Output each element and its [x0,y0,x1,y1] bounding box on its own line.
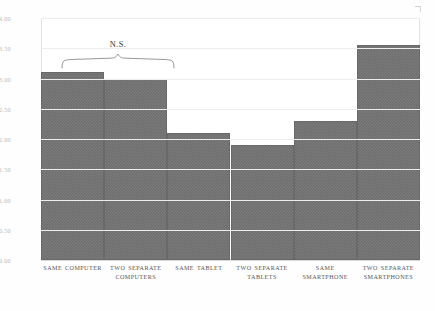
y-axis-tick-label: 2.50 [0,105,11,112]
bar [357,45,420,260]
x-axis-label-slot: SAME SMARTPHONE [294,264,357,281]
gridline [41,18,420,19]
y-axis-tick-label: 4.00 [0,15,11,22]
x-axis-tick-label: TWO SEPARATE COMPUTERS [105,264,166,281]
x-axis-tick-label: TWO SEPARATE TABLETS [232,264,293,281]
bar [231,145,294,260]
y-axis-tick-label: 3.00 [0,75,11,82]
y-axis-tick-label: 0.00 [0,257,11,264]
x-axis-label-slot: TWO SEPARATE TABLETS [231,264,294,281]
gridline [41,48,420,49]
x-axis-label-slot: TWO SEPARATE COMPUTERS [104,264,167,281]
gridline [41,109,420,110]
gridline [41,260,420,261]
bar [167,133,230,260]
x-axis-label-slot: SAME TABLET [167,264,230,281]
gridline [41,230,420,231]
x-axis-label-slot: TWO SEPARATE SMARTPHONES [357,264,420,281]
significance-annotation: N.S. [52,40,184,74]
bar [41,72,104,260]
gridline [41,200,420,201]
x-axis-tick-label: SAME COMPUTER [42,264,103,273]
x-axis-tick-label: SAME SMARTPHONE [295,264,356,281]
y-axis-tick-label: 1.00 [0,196,11,203]
bar-chart-figure: SAME COMPUTERTWO SEPARATE COMPUTERSSAME … [0,0,435,311]
gridline [41,169,420,170]
bar [294,121,357,260]
x-axis-labels: SAME COMPUTERTWO SEPARATE COMPUTERSSAME … [41,264,420,281]
corner-mark-icon [415,6,421,12]
y-axis-tick-label: 1.50 [0,166,11,173]
y-axis-tick-label: 3.50 [0,45,11,52]
gridline [41,79,420,80]
x-axis-label-slot: SAME COMPUTER [41,264,104,281]
x-axis-tick-label: TWO SEPARATE SMARTPHONES [358,264,419,281]
y-axis-tick-label: 0.50 [0,226,11,233]
gridline [41,139,420,140]
y-axis-tick-label: 2.00 [0,136,11,143]
significance-bracket-icon [60,53,176,69]
x-axis-tick-label: SAME TABLET [168,264,229,273]
